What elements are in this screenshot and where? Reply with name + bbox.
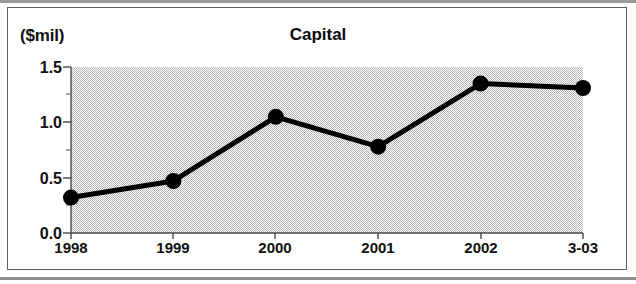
plot-background: [71, 67, 583, 233]
scan-top-rule: [0, 0, 636, 3]
scanned-page: ($mil) Capital 1.5 1.0 0.5 0.0 1998 1999…: [0, 0, 636, 284]
x-axis-ticks: [71, 233, 583, 239]
capital-line-chart: ($mil) Capital 1.5 1.0 0.5 0.0 1998 1999…: [8, 8, 628, 271]
scan-bottom-rule: [0, 277, 636, 280]
data-point-2002: [473, 76, 489, 92]
plot-area: [8, 8, 628, 271]
data-point-2001: [370, 139, 386, 155]
data-point-3-03: [575, 80, 591, 96]
y-axis-minor-ticks: [66, 94, 71, 205]
figure-frame: ($mil) Capital 1.5 1.0 0.5 0.0 1998 1999…: [7, 7, 627, 270]
data-point-1998: [63, 190, 79, 206]
data-point-2000: [268, 109, 284, 125]
data-point-1999: [165, 173, 181, 189]
